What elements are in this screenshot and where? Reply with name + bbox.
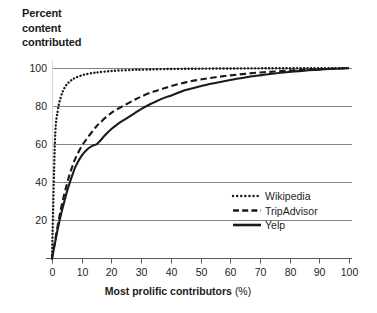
y-tick-labels-group: 20406080100 — [29, 62, 47, 226]
legend-label-yelp[interactable]: Yelp — [265, 219, 285, 231]
legend-group: WikipediaTripAdvisorYelp — [233, 190, 318, 231]
series-line-tripadvisor — [52, 68, 349, 258]
x-tick-label-90: 90 — [314, 266, 326, 278]
series-line-yelp — [52, 68, 349, 258]
x-axis-title: Most prolific contributors (%) — [105, 285, 251, 297]
gridlines-group — [52, 61, 352, 259]
x-tick-label-30: 30 — [136, 266, 148, 278]
y-tick-label-60: 60 — [35, 138, 47, 150]
x-tick-label-20: 20 — [106, 266, 118, 278]
x-axis-title-text: Most prolific contributors — [105, 285, 235, 297]
x-tick-label-60: 60 — [225, 266, 237, 278]
legend-label-wikipedia[interactable]: Wikipedia — [265, 190, 311, 202]
y-tick-label-40: 40 — [35, 176, 47, 188]
legend-label-tripadvisor[interactable]: TripAdvisor — [265, 205, 318, 217]
x-tick-marks-group — [53, 259, 350, 264]
x-tick-labels-group: 0102030405060708090100 — [50, 266, 359, 278]
chart-svg: 20406080100 0102030405060708090100 Wikip… — [0, 0, 377, 313]
x-tick-label-80: 80 — [285, 266, 297, 278]
x-axis-title-unit: (%) — [235, 285, 251, 297]
x-tick-label-40: 40 — [166, 266, 178, 278]
series-group — [52, 68, 349, 258]
x-tick-label-10: 10 — [77, 266, 89, 278]
y-tick-label-100: 100 — [29, 62, 47, 74]
chart-figure: Percent content contributed 20406080100 … — [0, 0, 377, 313]
x-tick-label-70: 70 — [255, 266, 267, 278]
x-tick-label-0: 0 — [50, 266, 56, 278]
x-tick-label-50: 50 — [196, 266, 208, 278]
y-tick-label-80: 80 — [35, 100, 47, 112]
y-tick-label-20: 20 — [35, 214, 47, 226]
series-line-wikipedia — [52, 68, 349, 258]
x-tick-label-100: 100 — [341, 266, 359, 278]
